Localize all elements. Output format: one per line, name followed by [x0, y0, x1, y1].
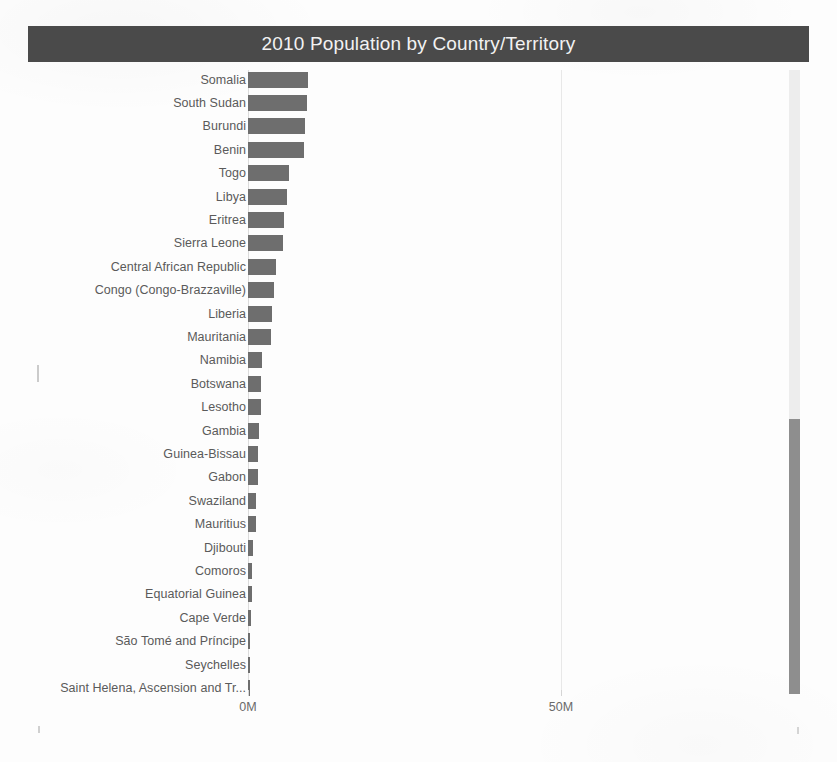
bar[interactable]	[248, 306, 272, 322]
bar-row[interactable]: South Sudan	[28, 91, 809, 114]
bar[interactable]	[248, 95, 307, 111]
bar[interactable]	[248, 563, 252, 579]
category-label: Togo	[219, 166, 246, 180]
bar[interactable]	[248, 72, 308, 88]
category-label: Gambia	[202, 424, 246, 438]
chart-visual[interactable]: 2010 Population by Country/Territory Som…	[28, 26, 809, 728]
category-label: Somalia	[200, 73, 246, 87]
bar-row[interactable]: Somalia	[28, 68, 809, 91]
bar-row[interactable]: Cape Verde	[28, 606, 809, 629]
category-label: Burundi	[203, 119, 246, 133]
bar[interactable]	[248, 399, 261, 415]
bar[interactable]	[248, 212, 284, 228]
bar-row[interactable]: Equatorial Guinea	[28, 583, 809, 606]
category-label: Benin	[214, 143, 246, 157]
scan-artifact-bottom-right	[797, 727, 799, 734]
category-label: Mauritius	[195, 517, 246, 531]
category-label: São Tomé and Príncipe	[115, 634, 246, 648]
bar-row[interactable]: Guinea-Bissau	[28, 442, 809, 465]
bar-row[interactable]: Gabon	[28, 466, 809, 489]
plot-area: SomaliaSouth SudanBurundiBeninTogoLibyaE…	[28, 70, 809, 728]
bar[interactable]	[248, 282, 274, 298]
bar[interactable]	[248, 586, 252, 602]
vertical-scrollbar[interactable]	[789, 70, 800, 694]
bar-row[interactable]: Libya	[28, 185, 809, 208]
category-label: South Sudan	[173, 96, 246, 110]
bar-row[interactable]: Eritrea	[28, 208, 809, 231]
tick-mark-0M	[248, 690, 249, 696]
bar-row[interactable]: Congo (Congo-Brazzaville)	[28, 279, 809, 302]
bar-row[interactable]: Seychelles	[28, 653, 809, 676]
bar[interactable]	[248, 189, 287, 205]
bar-row[interactable]: Sierra Leone	[28, 232, 809, 255]
category-label: Namibia	[200, 353, 246, 367]
bar[interactable]	[248, 493, 256, 509]
bar-row[interactable]: São Tomé and Príncipe	[28, 630, 809, 653]
bar[interactable]	[248, 259, 276, 275]
scrollbar-thumb[interactable]	[789, 419, 800, 694]
bar[interactable]	[248, 610, 251, 626]
category-label: Libya	[216, 190, 246, 204]
category-label: Comoros	[195, 564, 246, 578]
bar-row[interactable]: Swaziland	[28, 489, 809, 512]
bar[interactable]	[248, 352, 262, 368]
bar[interactable]	[248, 516, 256, 532]
bar-row[interactable]: Namibia	[28, 349, 809, 372]
category-label: Saint Helena, Ascension and Tr...	[60, 681, 246, 695]
bar-row[interactable]: Djibouti	[28, 536, 809, 559]
bar[interactable]	[248, 376, 261, 392]
bar-row[interactable]: Mauritania	[28, 325, 809, 348]
category-label: Liberia	[208, 307, 246, 321]
bar-row[interactable]: Comoros	[28, 559, 809, 582]
category-label: Mauritania	[187, 330, 246, 344]
bar-row[interactable]: Burundi	[28, 115, 809, 138]
category-label: Equatorial Guinea	[145, 587, 246, 601]
bar-row[interactable]: Gambia	[28, 419, 809, 442]
bar[interactable]	[248, 540, 253, 556]
category-label: Central African Republic	[111, 260, 246, 274]
category-label: Lesotho	[201, 400, 246, 414]
bar-row[interactable]: Botswana	[28, 372, 809, 395]
x-axis-tick-label: 0M	[239, 700, 256, 714]
bar-row[interactable]: Lesotho	[28, 396, 809, 419]
category-label: Seychelles	[185, 658, 246, 672]
bar[interactable]	[248, 235, 283, 251]
category-label: Cape Verde	[179, 611, 246, 625]
bar[interactable]	[248, 165, 289, 181]
x-axis-tick-label: 50M	[549, 700, 573, 714]
bar-row[interactable]: Central African Republic	[28, 255, 809, 278]
bar[interactable]	[248, 657, 250, 673]
bar[interactable]	[248, 469, 258, 485]
bar[interactable]	[248, 423, 259, 439]
category-label: Swaziland	[189, 494, 246, 508]
visual-title-bar: 2010 Population by Country/Territory	[28, 26, 809, 62]
category-label: Botswana	[191, 377, 246, 391]
category-label: Guinea-Bissau	[163, 447, 246, 461]
bar[interactable]	[248, 118, 305, 134]
bar[interactable]	[248, 329, 271, 345]
category-label: Eritrea	[209, 213, 246, 227]
bar[interactable]	[248, 142, 304, 158]
bar[interactable]	[248, 633, 250, 649]
category-label: Djibouti	[204, 541, 246, 555]
category-label: Congo (Congo-Brazzaville)	[95, 283, 246, 297]
bar-row[interactable]: Liberia	[28, 302, 809, 325]
category-label: Sierra Leone	[174, 236, 246, 250]
category-label: Gabon	[208, 470, 246, 484]
tick-mark-50M	[561, 690, 562, 696]
bar-row[interactable]: Togo	[28, 162, 809, 185]
page-title: 2010 Population by Country/Territory	[262, 33, 576, 55]
bar-row[interactable]: Mauritius	[28, 513, 809, 536]
bar-row[interactable]: Benin	[28, 138, 809, 161]
bar[interactable]	[248, 446, 258, 462]
bar-row[interactable]: Saint Helena, Ascension and Tr...	[28, 676, 809, 699]
